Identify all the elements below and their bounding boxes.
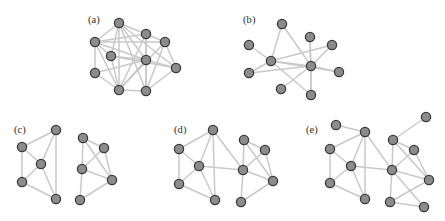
panel-b [240,10,370,110]
graph-edge [282,24,311,66]
graph-edge [22,130,56,147]
graph-edge [392,170,424,207]
graph-node[interactable] [409,145,418,154]
graph-node[interactable] [388,135,397,144]
graph-node[interactable] [260,145,269,154]
graph-node[interactable] [78,133,87,142]
graph-node[interactable] [36,159,45,168]
graph-edge [80,180,112,200]
graph-node[interactable] [114,18,123,27]
panel-e-graph [302,112,444,216]
graph-node[interactable] [360,194,369,203]
graph-node[interactable] [239,135,248,144]
graph-node[interactable] [266,56,275,65]
graph-edge [390,180,429,202]
panel-a [80,10,215,110]
graph-node[interactable] [141,86,150,95]
panel-c-edge-group [22,130,112,200]
graph-node[interactable] [194,161,203,170]
graph-node[interactable] [17,142,26,151]
graph-node[interactable] [236,197,245,206]
graph-node[interactable] [325,178,334,187]
panel-c [8,120,143,216]
graph-node[interactable] [327,40,336,49]
graph-edge [271,24,282,61]
graph-node[interactable] [210,195,219,204]
graph-edge [213,130,243,170]
graph-node[interactable] [17,177,26,186]
graph-edge [179,184,215,200]
panel-a-graph [80,10,215,110]
graph-node[interactable] [305,32,314,41]
graph-edge [22,182,56,199]
graph-node[interactable] [51,194,60,203]
graph-node[interactable] [334,67,343,76]
graph-node[interactable] [421,112,430,121]
panel-d-edge-group [179,130,273,202]
panel-e [302,112,444,216]
graph-node[interactable] [387,165,396,174]
graph-edge [213,130,215,200]
figure-canvas: (a)(b)(c)(d)(e) [0,0,445,221]
graph-node[interactable] [208,125,217,134]
graph-node[interactable] [51,125,60,134]
graph-node[interactable] [160,37,169,46]
panel-b-label: (b) [243,14,256,25]
graph-node[interactable] [360,127,369,136]
panel-e-label: (e) [306,124,318,135]
graph-node[interactable] [424,175,433,184]
graph-node[interactable] [419,202,428,211]
graph-edge [199,130,213,166]
graph-node[interactable] [346,161,355,170]
graph-node[interactable] [77,164,86,173]
graph-node[interactable] [107,175,116,184]
graph-node[interactable] [306,90,315,99]
panel-a-label: (a) [88,14,100,25]
graph-node[interactable] [141,29,150,38]
graph-node[interactable] [90,68,99,77]
graph-node[interactable] [331,120,340,129]
graph-edge [365,132,392,170]
panel-c-graph [8,120,143,216]
graph-node[interactable] [114,85,123,94]
graph-node[interactable] [75,195,84,204]
graph-edge [271,45,332,61]
graph-edge [41,164,56,199]
graph-node[interactable] [174,179,183,188]
graph-edge [199,166,215,200]
graph-node[interactable] [276,84,285,93]
graph-edge [41,130,56,164]
graph-edge [119,60,146,90]
graph-edge [351,166,392,170]
graph-node[interactable] [106,51,115,60]
graph-node[interactable] [174,144,183,153]
panel-b-edge-group [249,24,339,95]
graph-node[interactable] [385,197,394,206]
graph-edge [199,166,243,170]
graph-node[interactable] [238,165,247,174]
panel-b-node-group [244,19,343,99]
graph-node[interactable] [268,176,277,185]
graph-edge [241,181,273,202]
panel-d-label: (d) [174,124,187,135]
graph-edge [249,66,311,73]
graph-node[interactable] [277,19,286,28]
graph-node[interactable] [99,143,108,152]
graph-node[interactable] [306,61,315,70]
graph-node[interactable] [171,63,180,72]
panel-e-node-group [325,112,433,211]
graph-node[interactable] [244,40,253,49]
panel-b-graph [240,10,370,110]
graph-edge [393,117,426,140]
graph-node[interactable] [244,68,253,77]
graph-node[interactable] [325,144,334,153]
graph-node[interactable] [141,55,150,64]
graph-edge [392,170,429,180]
panel-e-edge-group [330,117,429,207]
panel-c-label: (c) [14,124,26,135]
graph-node[interactable] [90,37,99,46]
